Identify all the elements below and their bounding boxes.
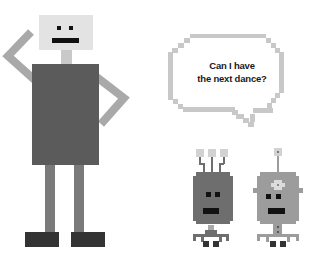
tall-robot-head: [39, 15, 93, 50]
antenna-tip-icon: [220, 149, 228, 157]
small-robot-1-right-eye: [215, 192, 220, 197]
speech-line-2: the next dance?: [186, 72, 278, 85]
small-robot-1-left-eye: [206, 192, 211, 197]
tall-robot-left-eye: [57, 26, 61, 30]
antenna-tip-icon: [196, 149, 204, 157]
tall-robot-mouth: [52, 38, 79, 43]
speech-bubble-text: Can I have the next dance?: [186, 59, 278, 85]
small-robot-2-left-eye: [266, 194, 271, 199]
tall-robot-left-leg: [45, 165, 55, 233]
tall-robot-neck: [61, 50, 72, 64]
illustration-scene: Can I have the next dance?: [0, 0, 321, 267]
small-robot-1-head: [193, 176, 233, 221]
tall-robot-body: [32, 64, 99, 165]
tall-robot-right-foot: [71, 232, 105, 247]
tall-robot-left-foot: [25, 232, 59, 247]
speech-line-1: Can I have: [186, 59, 278, 72]
small-robot-2-mouth: [268, 208, 285, 214]
tall-robot-right-eye: [69, 26, 73, 30]
antenna-tip-icon: [208, 149, 216, 157]
tall-robot-right-leg: [74, 165, 84, 233]
small-robot-2-right-eye: [276, 194, 281, 199]
small-robot-1-mouth: [203, 208, 219, 214]
